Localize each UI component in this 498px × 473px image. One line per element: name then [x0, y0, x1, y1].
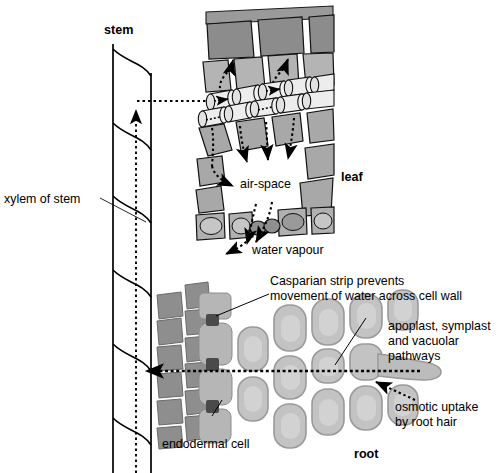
leaf-label: leaf — [341, 170, 363, 185]
water-vapour-label: water vapour — [252, 243, 324, 258]
spongy-mesophyll-cells — [196, 109, 334, 216]
endodermal-cell-label: endodermal cell — [162, 437, 249, 452]
xylem-of-stem-leader — [100, 198, 146, 222]
xylem-of-stem-label: xylem of stem — [4, 192, 80, 207]
casparian-label-line2: movement of water across cell wall — [270, 289, 462, 304]
stem-xylem-structure — [113, 44, 151, 473]
stem-label: stem — [104, 23, 133, 38]
pathways-label-line3: pathways — [388, 349, 440, 364]
casparian-label-line1: Casparian strip prevents — [270, 274, 404, 289]
osmotic-label-line1: osmotic uptake — [395, 400, 478, 415]
pathways-label-line2: and vacuolar — [388, 334, 459, 349]
osmotic-label-line2: by root hair — [395, 415, 457, 430]
air-space-label: air-space — [240, 177, 291, 192]
water-transport-diagram: stem leaf root xylem of stem air-space w… — [0, 0, 498, 473]
stoma-guard-cells — [250, 219, 280, 235]
pathways-label-line1: apoplast, symplast — [388, 319, 491, 334]
root-label: root — [354, 447, 378, 462]
leaf-structure — [196, 6, 334, 254]
